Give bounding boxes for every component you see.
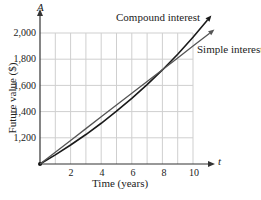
compound-interest-curve [40,20,208,164]
y-tick-label: 2,000 [2,27,36,38]
x-tick-label: 10 [184,167,204,178]
series-group [40,15,214,164]
y-axis-label: Future value ($) [6,58,18,138]
x-tick-label: 2 [61,167,81,178]
x-tick-label: 8 [154,167,174,178]
compound-interest-label: Compound interest [116,11,200,23]
simple-interest-label: Simple interest [197,43,261,55]
simple-interest-line [40,33,210,164]
x-axis-symbol: t [218,155,221,167]
grid [40,33,193,164]
x-axis-arrow-icon [208,161,215,167]
y-axis-symbol: A [37,1,44,13]
x-axis-label: Time (years) [92,177,148,189]
